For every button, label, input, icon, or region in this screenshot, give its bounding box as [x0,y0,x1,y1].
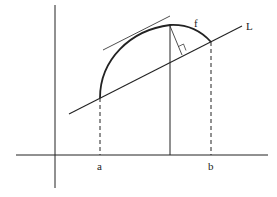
curve-f [100,25,211,98]
secant-line-L [69,26,242,114]
tangent-line [103,16,170,50]
label-a: a [97,160,102,172]
diagram-canvas: f L a b [0,0,277,197]
perpendicular-to-L [170,26,182,55]
label-b: b [208,160,214,172]
label-f: f [194,17,198,29]
label-L: L [246,20,253,32]
